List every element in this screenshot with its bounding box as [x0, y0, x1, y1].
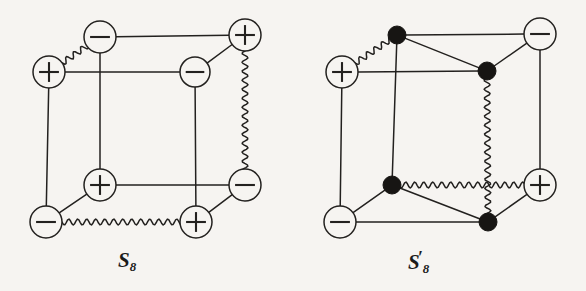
edge-wavy	[62, 219, 180, 225]
edge-straight	[116, 35, 229, 37]
edge-straight	[59, 194, 87, 213]
vertex-solid	[478, 62, 496, 80]
caption-subscript: 8	[130, 259, 137, 274]
edge-wavy	[62, 46, 88, 64]
vertex-sign-plus	[84, 169, 116, 201]
vertex-solid	[383, 176, 401, 194]
vertex-sign-plus	[326, 56, 358, 88]
edge-straight	[340, 88, 342, 206]
edge-straight	[358, 71, 480, 72]
edge-straight	[207, 45, 232, 64]
vertex-sign-minus	[324, 206, 356, 238]
edge-wavy	[399, 182, 524, 188]
edge-straight	[392, 42, 397, 178]
vertex-sign-minus	[30, 206, 62, 238]
edge-straight	[404, 34, 524, 35]
caption-base: S	[118, 248, 130, 272]
figure-root: S8 S′8	[0, 0, 586, 291]
vertex-sign-minus	[524, 18, 556, 50]
graph-s8-prime	[324, 18, 556, 238]
caption-s8-prime: S′8	[408, 248, 429, 277]
vertex-sign-minus	[229, 169, 261, 201]
vertex-sign-plus	[33, 56, 65, 88]
caption-s8: S8	[118, 248, 136, 275]
edge-straight	[494, 194, 527, 218]
caption-subscript: 8	[423, 261, 430, 276]
vertex-sign-plus	[229, 19, 261, 51]
edge-wavy	[242, 51, 248, 169]
signed-cube-diagram	[0, 0, 586, 291]
edge-straight	[403, 38, 480, 69]
vertex-sign-minus	[84, 21, 116, 53]
vertex-sign-plus	[180, 206, 212, 238]
edge-straight	[353, 189, 386, 213]
vertex-sign-minus	[180, 57, 210, 87]
edge-straight	[209, 195, 232, 213]
edge-wavy	[355, 37, 389, 65]
edge-straight	[46, 88, 48, 206]
vertex-sign-plus	[524, 169, 556, 201]
edge-straight	[493, 43, 527, 67]
edge-straight	[399, 188, 482, 220]
vertex-solid	[479, 213, 497, 231]
graph-s8	[30, 19, 261, 238]
edge-wavy	[484, 78, 491, 215]
vertex-solid	[388, 26, 406, 44]
edge-straight	[195, 87, 196, 206]
